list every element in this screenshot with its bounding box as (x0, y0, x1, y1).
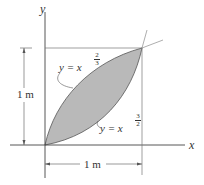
arrow-up-icon (23, 48, 26, 53)
x-axis-label: x (189, 138, 194, 153)
arrow-down-icon (23, 140, 26, 145)
width-dimension-label: 1 m (84, 158, 101, 170)
curve-extension-1 (142, 30, 147, 48)
arrow-right-icon (137, 163, 142, 166)
height-dimension-label: 1 m (17, 88, 34, 100)
leader-upper (58, 73, 73, 88)
y-axis-label: y (40, 2, 45, 17)
curve-extension-2 (142, 40, 163, 48)
arrow-left-icon (45, 163, 50, 166)
